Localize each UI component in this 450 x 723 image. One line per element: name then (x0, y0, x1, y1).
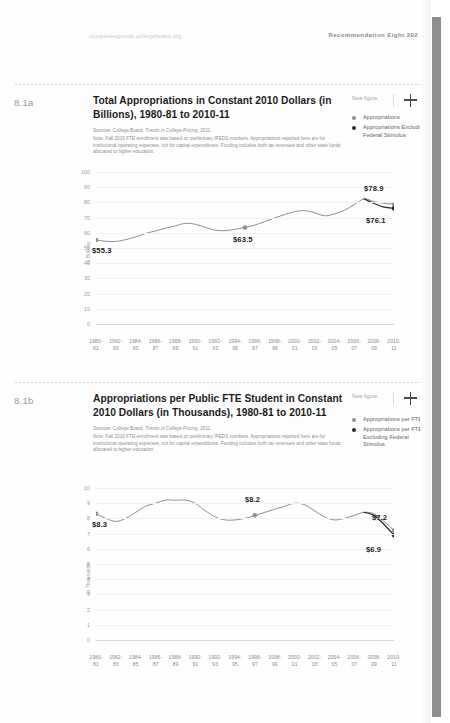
x-tick-year-end: 91 (185, 345, 205, 352)
x-tick-year-end: 85 (126, 661, 146, 668)
x-tick-year-end: 83 (106, 345, 126, 352)
x-tick-year-start: 1992- (205, 654, 225, 661)
x-axis-tick: 2008-09 (364, 654, 384, 668)
data-point-marker[interactable] (96, 238, 98, 243)
x-tick-year-start: 1982- (106, 654, 126, 661)
y-axis-tick: 10 (70, 485, 90, 491)
section-divider (15, 382, 425, 383)
x-axis-tick: 1992-93 (205, 654, 225, 668)
x-tick-year-start: 2000- (285, 338, 305, 345)
x-tick-year-start: 2002- (305, 338, 325, 345)
x-tick-year-start: 1986- (146, 338, 166, 345)
x-axis-tick: 2010-11 (384, 338, 404, 352)
plus-icon[interactable] (404, 391, 418, 405)
data-value-label: $7.2 (372, 513, 387, 522)
x-tick-year-end: 95 (225, 345, 245, 352)
y-axis-tick: 20 (70, 291, 90, 297)
data-point-marker[interactable] (253, 513, 258, 518)
page-edge-shadow (420, 0, 431, 723)
x-axis-tick: 2002-03 (305, 654, 325, 668)
gridline (96, 278, 394, 279)
x-tick-year-start: 2010- (384, 654, 404, 661)
y-axis-tick: 7 (70, 531, 90, 537)
data-point-marker[interactable] (96, 512, 98, 517)
x-tick-year-start: 2008- (364, 654, 384, 661)
x-axis-tick: 1990-91 (185, 338, 205, 352)
x-tick-year-start: 1996- (245, 338, 265, 345)
x-tick-year-start: 1998- (265, 654, 285, 661)
data-value-label: $76.1 (366, 216, 386, 225)
x-axis-tick: 1984-85 (126, 338, 146, 352)
x-tick-year-end: 07 (344, 345, 364, 352)
x-axis-tick: 2004-05 (324, 654, 344, 668)
plot-area-a: 0102030405060708090100$55.3$63.5$78.9$76… (96, 172, 394, 324)
x-tick-year-start: 1994- (225, 338, 245, 345)
data-value-label: $78.9 (364, 184, 384, 193)
y-axis-tick: 6 (70, 546, 90, 552)
y-axis-tick: 10 (70, 306, 90, 312)
x-axis-tick: 2002-03 (305, 338, 325, 352)
gridline (96, 263, 394, 264)
x-tick-year-end: 03 (305, 345, 325, 352)
plot-area-b: 012345678910$8.3$8.2$7.2$6.9 (96, 488, 394, 640)
gridline (96, 218, 394, 219)
y-axis-tick: 0 (70, 637, 90, 643)
x-axis-tick: 1988-89 (165, 654, 185, 668)
x-tick-year-end: 09 (364, 345, 384, 352)
x-tick-year-start: 2004- (324, 338, 344, 345)
x-axis-tick: 1980-81 (86, 338, 106, 352)
x-tick-year-start: 1988- (165, 338, 185, 345)
y-axis-tick: 90 (70, 184, 90, 190)
x-tick-year-end: 05 (324, 661, 344, 668)
y-axis-tick: 0 (70, 321, 90, 327)
x-tick-year-start: 1996- (245, 654, 265, 661)
y-axis-tick: 60 (70, 230, 90, 236)
gridline (96, 579, 394, 580)
x-axis-tick: 2000-01 (285, 654, 305, 668)
x-tick-year-end: 87 (146, 345, 166, 352)
gridline (96, 564, 394, 565)
x-axis-tick: 1996-97 (245, 338, 265, 352)
x-axis-tick: 1986-87 (146, 338, 166, 352)
y-axis-tick: 2 (70, 607, 90, 613)
x-axis-line (96, 324, 394, 325)
x-axis-tick: 1994-95 (225, 338, 245, 352)
x-axis-line (96, 640, 394, 641)
x-tick-year-start: 2006- (344, 338, 364, 345)
gridline (96, 488, 394, 489)
x-tick-year-start: 2000- (285, 654, 305, 661)
data-value-label: $8.3 (92, 520, 107, 529)
gridline (96, 294, 394, 295)
gridline (96, 172, 394, 173)
gridline (96, 518, 394, 519)
x-tick-year-start: 2002- (305, 654, 325, 661)
x-axis-tick: 1994-95 (225, 654, 245, 668)
x-axis-tick: 1996-97 (245, 654, 265, 668)
x-tick-year-end: 97 (245, 345, 265, 352)
gridline (96, 248, 394, 249)
x-tick-year-start: 1984- (126, 654, 146, 661)
x-tick-year-end: 85 (126, 345, 146, 352)
y-axis-tick: 40 (70, 260, 90, 266)
recommendation-label: Recommendation Eight 202 (329, 32, 418, 38)
data-point-marker[interactable] (243, 225, 248, 230)
x-axis-tick: 2006-07 (344, 338, 364, 352)
x-axis-tick: 1980-81 (86, 654, 106, 668)
gridline (96, 625, 394, 626)
x-axis-tick: 2010-11 (384, 654, 404, 668)
scrollbar-thumb[interactable] (432, 17, 441, 717)
chart-8-1b: In Thousands 012345678910$8.3$8.2$7.2$6.… (0, 404, 430, 604)
gridline (96, 202, 394, 203)
x-tick-year-start: 1980- (86, 338, 106, 345)
data-point-marker[interactable] (392, 206, 394, 211)
x-tick-year-end: 83 (106, 661, 126, 668)
x-tick-year-end: 11 (384, 661, 404, 668)
scrollbar-track[interactable] (431, 0, 450, 723)
gridline (96, 594, 394, 595)
y-axis-tick: 8 (70, 515, 90, 521)
y-axis-tick: 9 (70, 500, 90, 506)
x-tick-year-end: 97 (245, 661, 265, 668)
x-tick-year-end: 03 (305, 661, 325, 668)
x-tick-year-start: 2010- (384, 338, 404, 345)
x-axis-tick: 2004-05 (324, 338, 344, 352)
